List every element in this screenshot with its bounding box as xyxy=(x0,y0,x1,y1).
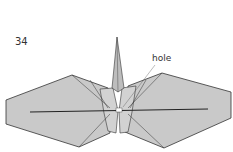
origami-diagram xyxy=(0,0,233,152)
center-hole xyxy=(116,108,122,112)
